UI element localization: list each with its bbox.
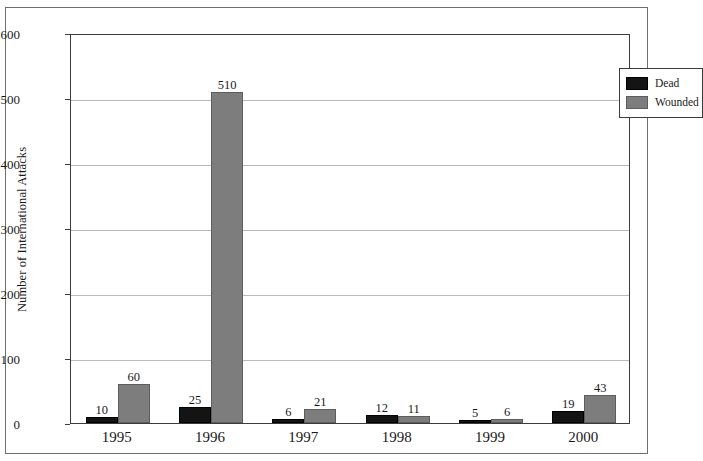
bar-dead-1995 — [86, 417, 118, 424]
x-axis-tick-label-1995: 1995 — [70, 430, 163, 445]
y-axis-tick-label: 0 — [0, 418, 20, 431]
y-axis-tick-label: 300 — [0, 223, 20, 236]
bar-dead-1999 — [459, 420, 491, 423]
gridline — [71, 100, 629, 101]
bar-wounded-1995 — [118, 384, 150, 423]
bar-dead-1996 — [179, 407, 211, 423]
y-axis-tick-label: 400 — [0, 158, 20, 171]
x-axis-tick-label-1997: 1997 — [257, 430, 350, 445]
legend-swatch-wounded-icon — [626, 96, 648, 109]
x-axis-tick-label-2000: 2000 — [537, 430, 630, 445]
bar-wounded-1996 — [211, 92, 243, 424]
gridline — [71, 230, 629, 231]
bar-wounded-1997 — [304, 409, 336, 423]
y-axis-tick-label: 600 — [0, 28, 20, 41]
bar-value-label: 21 — [295, 396, 345, 409]
legend-swatch-dead-icon — [626, 77, 648, 90]
plot-area: 1060255106211211561943 Dead Wounded — [70, 34, 630, 424]
bar-value-label: 60 — [109, 371, 159, 384]
y-axis-tick-mark — [65, 424, 70, 425]
bar-wounded-2000 — [584, 395, 616, 423]
bar-value-label: 6 — [482, 406, 532, 419]
bar-wounded-1999 — [491, 419, 523, 423]
legend-item-wounded: Wounded — [626, 93, 702, 112]
y-axis-tick-label: 500 — [0, 93, 20, 106]
bar-value-label: 510 — [202, 79, 252, 92]
chart-legend: Dead Wounded — [619, 68, 703, 118]
y-axis-tick-label: 200 — [0, 288, 20, 301]
gridline — [71, 360, 629, 361]
x-axis-tick-label-1996: 1996 — [163, 430, 256, 445]
bar-wounded-1998 — [398, 416, 430, 423]
bar-dead-1998 — [366, 415, 398, 423]
legend-label-dead: Dead — [655, 78, 679, 90]
chart-title-strip — [0, 0, 656, 2]
gridline — [71, 165, 629, 166]
legend-item-dead: Dead — [626, 74, 702, 93]
legend-label-wounded: Wounded — [655, 97, 699, 109]
bar-dead-1997 — [272, 419, 304, 423]
y-axis-tick-label: 100 — [0, 353, 20, 366]
x-axis-tick-label-1998: 1998 — [350, 430, 443, 445]
gridline — [71, 295, 629, 296]
bar-value-label: 11 — [389, 403, 439, 416]
bar-dead-2000 — [552, 411, 584, 423]
x-axis-tick-label-1999: 1999 — [443, 430, 536, 445]
bar-value-label: 43 — [575, 382, 625, 395]
